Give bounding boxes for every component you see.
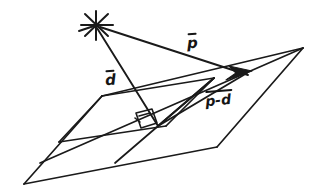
geometry-diagram: p d p-d: [0, 0, 317, 192]
label-vector-d: d: [104, 70, 116, 88]
label-vector-p: p: [187, 33, 199, 51]
label-vector-p-minus-d-text: p-d: [204, 91, 231, 109]
plane-guide-lines: [40, 48, 303, 163]
label-vector-p-text: p: [187, 33, 199, 52]
label-vector-d-text: d: [104, 70, 116, 89]
inner-edge-left: [59, 96, 102, 142]
asterisk-star-point-icon: [79, 11, 113, 40]
plane-guide-line-upper: [40, 48, 303, 163]
label-vector-p-minus-d: p-d: [204, 89, 233, 108]
vector-p-minus-d: [158, 73, 247, 126]
plane-outline: [24, 48, 303, 184]
diagram-canvas: [0, 0, 317, 192]
vector-p-minus-d-shaft: [158, 73, 247, 126]
